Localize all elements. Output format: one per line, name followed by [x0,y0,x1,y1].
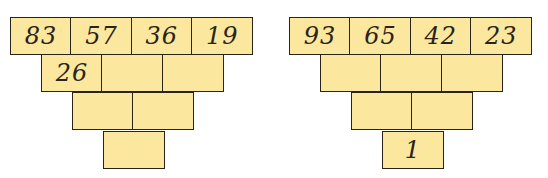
pyramid-cell[interactable] [132,92,194,130]
pyramid-cell[interactable]: 57 [70,17,132,55]
pyramid-row-3 [351,92,473,130]
pyramid-cell[interactable] [380,54,442,92]
pyramid-cell[interactable]: 93 [289,17,351,55]
pyramid-row-4 [103,131,165,169]
pyramid-cell[interactable] [101,54,163,92]
pyramid-cell[interactable] [320,54,382,92]
pyramid-row-2: 26 [41,54,224,92]
pyramid-cell[interactable]: 23 [470,17,532,55]
pyramid-cell[interactable]: 36 [131,17,193,55]
pyramid-cell[interactable] [103,131,165,169]
pyramid-cell[interactable] [411,92,473,130]
pyramid-cell[interactable] [162,54,224,92]
pyramid-cell[interactable]: 42 [410,17,472,55]
pyramid-cell[interactable] [441,54,503,92]
pyramid-cell[interactable]: 83 [10,17,72,55]
pyramid-cell[interactable] [72,92,134,130]
pyramid-cell[interactable]: 1 [382,131,444,169]
pyramid-cell[interactable] [351,92,413,130]
pyramid-row-3 [72,92,194,130]
pyramid-cell[interactable]: 65 [349,17,411,55]
pyramid-row-1: 83 57 36 19 [10,17,253,55]
pyramid-row-1: 93 65 42 23 [289,17,532,55]
pyramid-row-4: 1 [382,131,444,169]
pyramid-cell[interactable]: 26 [41,54,103,92]
pyramid-row-2 [320,54,503,92]
pyramid-cell[interactable]: 19 [191,17,253,55]
